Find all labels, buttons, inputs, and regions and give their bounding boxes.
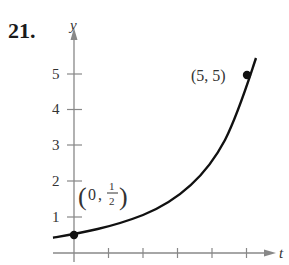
x-axis-arrow-icon — [264, 250, 276, 257]
point-label-5-5: (5, 5) — [191, 67, 226, 85]
point-label-0-half: ( 0 , 1 2 ) — [78, 180, 128, 211]
y-axis-label: y — [68, 17, 77, 33]
x-axis-label: t — [279, 245, 284, 261]
svg-text:(: ( — [78, 182, 87, 211]
y-tick-label-4: 4 — [52, 101, 60, 117]
svg-text:0: 0 — [88, 186, 96, 203]
y-tick-label-5: 5 — [52, 66, 60, 82]
svg-text:2: 2 — [109, 195, 115, 207]
svg-text:): ) — [119, 182, 128, 211]
exponential-graph: 1 2 3 4 5 y t ( 0 , 1 2 ) (5, 5) — [0, 0, 289, 265]
svg-text:1: 1 — [109, 180, 115, 192]
point-5-5 — [243, 71, 251, 79]
y-tick-label-1: 1 — [52, 209, 60, 225]
y-tick-label-3: 3 — [52, 137, 60, 153]
y-tick-label-2: 2 — [52, 173, 60, 189]
point-0-half — [70, 231, 78, 239]
svg-text:,: , — [98, 186, 102, 203]
